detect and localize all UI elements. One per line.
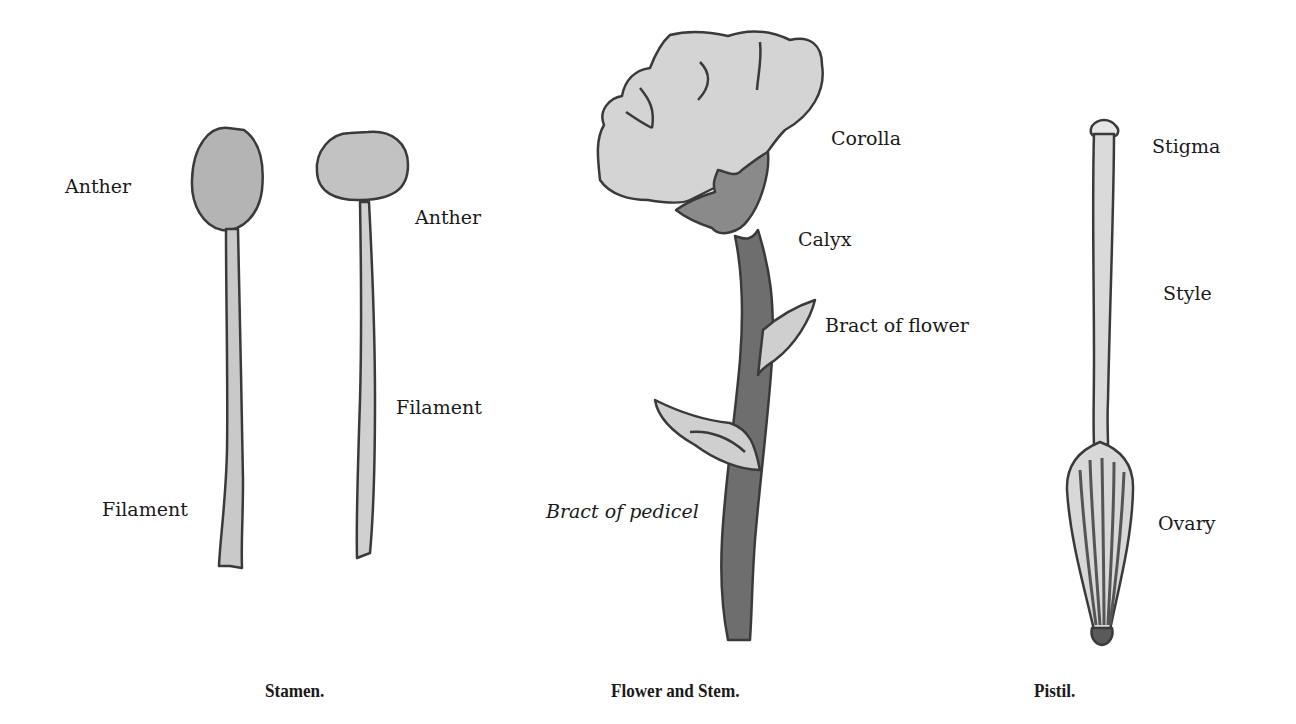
caption-flower-and-stem: Flower and Stem. — [611, 680, 739, 702]
stamen-right-drawing — [317, 132, 408, 558]
anther-right-shape — [317, 132, 408, 200]
label-anther-left: Anther — [65, 175, 131, 197]
label-filament-right: Filament — [396, 396, 482, 418]
label-bract-of-pedicel: Bract of pedicel — [546, 500, 699, 522]
label-bract-of-flower: Bract of flower — [825, 314, 969, 336]
filament-left-shape — [219, 229, 243, 568]
label-filament-left: Filament — [102, 498, 188, 520]
caption-stamen: Stamen. — [265, 680, 324, 702]
label-ovary: Ovary — [1158, 512, 1215, 534]
ovary-base — [1091, 628, 1112, 645]
anther-left-shape — [192, 128, 263, 230]
label-anther-right: Anther — [415, 206, 481, 228]
label-style: Style — [1163, 282, 1212, 304]
style-shape — [1093, 134, 1114, 445]
pistil-drawing — [1067, 120, 1133, 645]
label-corolla: Corolla — [831, 127, 901, 149]
filament-right-shape — [357, 202, 375, 558]
botany-illustration — [0, 0, 1296, 724]
ovary-shape — [1067, 442, 1133, 630]
caption-pistil: Pistil. — [1034, 680, 1075, 702]
flower-drawing — [598, 31, 823, 640]
stamen-left-drawing — [192, 128, 263, 568]
label-stigma: Stigma — [1152, 135, 1220, 157]
label-calyx: Calyx — [798, 228, 851, 250]
